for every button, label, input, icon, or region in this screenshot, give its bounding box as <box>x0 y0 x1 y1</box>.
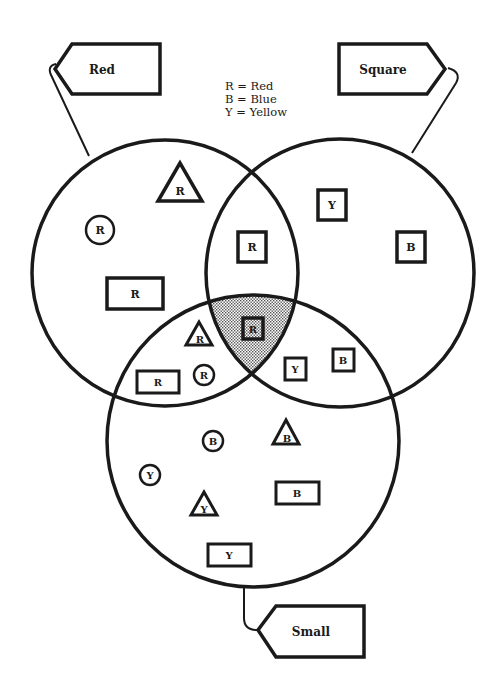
svg-text:R: R <box>95 224 105 237</box>
svg-text:B: B <box>339 355 347 366</box>
svg-text:Y: Y <box>290 364 299 375</box>
item-red-small-small-rectangle-r: R <box>137 371 179 393</box>
item-red-large-circle-r: R <box>86 216 114 244</box>
svg-text:R: R <box>249 324 258 335</box>
svg-text:R: R <box>130 288 140 301</box>
tag-red: Red <box>50 44 160 156</box>
tag-square: Square <box>339 44 458 153</box>
tag-square-label: Square <box>359 63 407 77</box>
set-circle-red <box>32 140 298 406</box>
tag-small-label: Small <box>292 625 331 639</box>
item-red-large-rectangle-r: R <box>107 278 163 309</box>
tag-red-label: Red <box>89 63 116 77</box>
item-square-large-square-y: Y <box>318 190 346 220</box>
svg-text:B: B <box>209 436 217 447</box>
color-legend: R = Red B = Blue Y = Yellow <box>225 80 287 119</box>
item-small-small-triangle-y: Y <box>191 492 217 515</box>
svg-text:R: R <box>196 334 205 345</box>
item-small-small-rectangle-b: B <box>276 482 319 504</box>
svg-text:B: B <box>293 488 301 499</box>
item-red-small-small-circle-r: R <box>194 365 214 385</box>
item-square-small-small-square-b: B <box>333 349 354 371</box>
item-small-small-circle-b: B <box>203 431 223 451</box>
svg-text:Y: Y <box>224 550 233 561</box>
item-small-small-triangle-b: B <box>273 420 299 444</box>
item-small-small-rectangle-y: Y <box>208 544 251 566</box>
item-small-small-circle-y: Y <box>140 465 160 485</box>
svg-text:R: R <box>247 241 257 254</box>
item-triple-small-square-r: R <box>243 318 263 339</box>
svg-text:R: R <box>154 377 163 388</box>
item-red-large-triangle-r: R <box>158 163 202 201</box>
item-square-small-small-square-y: Y <box>285 358 306 380</box>
legend-entry-yellow: Y = Yellow <box>225 106 287 119</box>
svg-text:R: R <box>175 185 185 198</box>
svg-text:Y: Y <box>327 199 336 212</box>
svg-text:Y: Y <box>199 504 208 515</box>
item-red-square-large-square-r: R <box>238 232 266 262</box>
item-square-large-square-b: B <box>397 232 425 262</box>
svg-text:Y: Y <box>145 470 154 481</box>
tag-small: Small <box>244 588 364 657</box>
svg-text:B: B <box>283 433 291 444</box>
item-red-small-small-triangle-r: R <box>186 322 212 345</box>
svg-text:B: B <box>406 241 415 254</box>
svg-text:R: R <box>200 370 209 381</box>
